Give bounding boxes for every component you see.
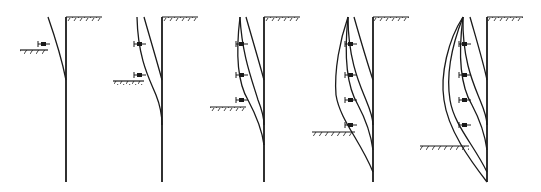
anchor-icon [459,72,471,78]
ground-surface-hatch [163,17,198,21]
deflection-curve-1 [48,17,66,80]
deflection-curve-1 [470,17,487,80]
deflection-curve-2 [137,17,162,125]
ground-surface-hatch [488,17,523,21]
anchor-block [137,42,142,46]
stage-1 [20,17,102,182]
stage-2 [113,17,198,182]
ground-surface-hatch [265,17,300,21]
anchor-block [239,98,244,102]
anchor-block [348,73,353,77]
anchor-block [239,73,244,77]
anchor-block [41,42,46,46]
deflection-curve-1 [354,17,373,80]
anchor-block [137,73,142,77]
anchor-icon [134,72,146,78]
stages-group [20,17,523,182]
anchor-block [348,98,353,102]
anchor-icon [345,72,357,78]
anchor-block [462,42,467,46]
excavation-level-hatch [20,50,48,54]
ground-surface-hatch [67,17,102,21]
anchor-block [348,42,353,46]
anchor-icon [459,97,471,103]
diagram-canvas [0,0,541,192]
excavation-level-hatch [210,107,246,111]
stage-4 [312,17,409,182]
staged-excavation-diagram [0,0,541,192]
stage-3 [210,17,300,182]
anchor-icon [236,72,248,78]
ground-surface-hatch [374,17,409,21]
deflection-curve-4 [336,17,373,172]
excavation-level-hatch [312,132,355,136]
excavation-level-hatch [113,81,144,85]
anchor-block [348,123,353,127]
anchor-block [462,123,467,127]
anchor-block [462,98,467,102]
stage-5 [420,17,523,182]
anchor-block [239,42,244,46]
anchor-icon [38,41,50,47]
anchor-block [462,73,467,77]
anchor-icon [345,97,357,103]
